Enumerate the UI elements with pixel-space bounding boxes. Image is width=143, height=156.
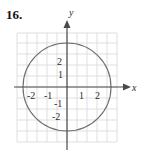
- figure-container: 16.: [0, 0, 143, 156]
- y-axis-arrow-icon: [64, 20, 71, 28]
- y-axis-label: y: [69, 8, 73, 18]
- x-tick-label-1: 1: [79, 91, 84, 101]
- y-tick-label-1: 1: [58, 70, 63, 80]
- x-axis-arrow-icon: [123, 84, 131, 91]
- coordinate-plane-graph: [0, 0, 143, 156]
- x-tick-label-2: 2: [95, 91, 100, 101]
- y-tick-label-neg2: -2: [52, 112, 60, 122]
- y-tick-label-2: 2: [57, 57, 62, 67]
- x-tick-label-neg2: -2: [27, 91, 35, 101]
- x-tick-label-neg1: -1: [44, 91, 52, 101]
- x-axis-label: x: [132, 83, 136, 93]
- y-tick-label-neg1: -1: [54, 99, 62, 109]
